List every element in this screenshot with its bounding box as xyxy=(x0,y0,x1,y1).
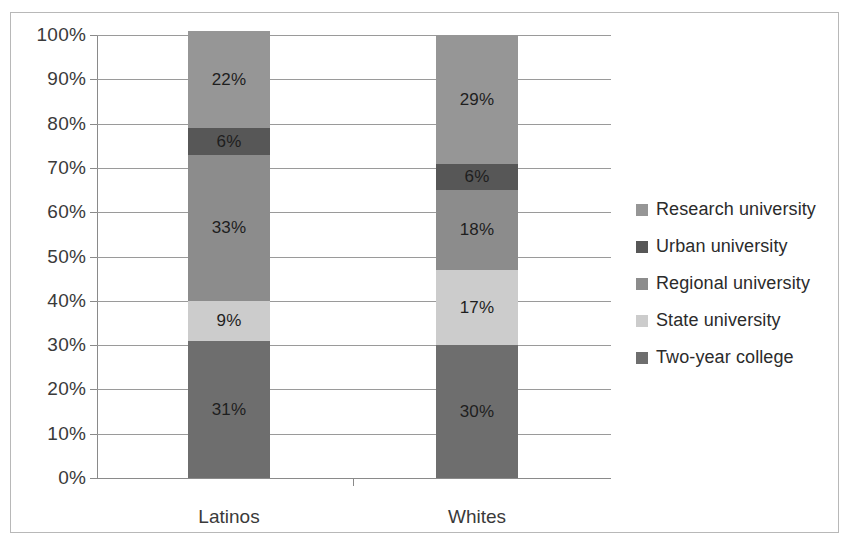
gridline-20 xyxy=(97,389,611,390)
bar-segment-value-label: 18% xyxy=(460,221,495,238)
x-axis-category-label: Latinos xyxy=(198,506,259,528)
plot-area: 100%90%80%70%60%50%40%30%20%10%0% 22%6%3… xyxy=(97,35,611,478)
legend-item-3[interactable]: State university xyxy=(636,302,836,339)
y-axis-tick-label: 50% xyxy=(47,246,86,268)
gridline-40 xyxy=(97,301,611,302)
gridline-90 xyxy=(97,79,611,80)
legend-item-4[interactable]: Two-year college xyxy=(636,339,836,376)
y-axis-tick-mark xyxy=(90,35,97,36)
legend-item-label: Two-year college xyxy=(656,347,794,368)
gridline-50 xyxy=(97,257,611,258)
bar-segment-value-label: 30% xyxy=(460,403,495,420)
chart-frame: 100%90%80%70%60%50%40%30%20%10%0% 22%6%3… xyxy=(10,12,839,533)
y-axis-tick-mark xyxy=(90,345,97,346)
y-axis-tick-label: 100% xyxy=(37,24,86,46)
y-axis-tick-mark xyxy=(90,389,97,390)
bar-segment-value-label: 22% xyxy=(212,71,247,88)
bar-segment[interactable]: 30% xyxy=(436,345,518,478)
y-axis-tick-label: 10% xyxy=(47,423,86,445)
legend-item-2[interactable]: Regional university xyxy=(636,265,836,302)
y-axis-tick-mark xyxy=(90,79,97,80)
legend-item-1[interactable]: Urban university xyxy=(636,228,836,265)
legend-swatch-icon xyxy=(636,241,648,253)
bar-segment[interactable]: 6% xyxy=(436,164,518,191)
gridline-80 xyxy=(97,124,611,125)
bar-whites[interactable]: 29%6%18%17%30% xyxy=(436,35,518,478)
y-axis-tick-label: 30% xyxy=(47,334,86,356)
bar-segment[interactable]: 6% xyxy=(188,128,270,155)
y-axis-tick-label: 20% xyxy=(47,378,86,400)
y-axis-tick-mark xyxy=(90,168,97,169)
gridline-60 xyxy=(97,212,611,213)
bar-latinos[interactable]: 22%6%33%9%31% xyxy=(188,31,270,478)
bar-segment-value-label: 6% xyxy=(465,168,490,185)
bar-segment[interactable]: 17% xyxy=(436,270,518,345)
gridline-10 xyxy=(97,434,611,435)
y-axis-tick-mark xyxy=(90,124,97,125)
bar-segment[interactable]: 31% xyxy=(188,341,270,478)
bar-segment-value-label: 31% xyxy=(212,401,247,418)
legend-item-label: Regional university xyxy=(656,273,810,294)
y-axis-tick-label: 80% xyxy=(47,113,86,135)
y-axis-tick-label: 60% xyxy=(47,201,86,223)
gridline-0 xyxy=(97,478,611,479)
gridline-30 xyxy=(97,345,611,346)
bar-segment[interactable]: 9% xyxy=(188,301,270,341)
bar-segment[interactable]: 22% xyxy=(188,31,270,128)
legend-item-label: Research university xyxy=(656,199,816,220)
bar-segment-value-label: 29% xyxy=(460,91,495,108)
bar-segment-value-label: 17% xyxy=(460,299,495,316)
legend-swatch-icon xyxy=(636,204,648,216)
bar-segment[interactable]: 18% xyxy=(436,190,518,270)
y-axis-tick-label: 70% xyxy=(47,157,86,179)
bar-segment-value-label: 9% xyxy=(217,312,242,329)
legend-swatch-icon xyxy=(636,278,648,290)
x-axis-separator-tick xyxy=(353,478,354,486)
gridline-100 xyxy=(97,35,611,36)
y-axis-tick-mark xyxy=(90,257,97,258)
y-axis-tick-label: 40% xyxy=(47,290,86,312)
bar-segment[interactable]: 33% xyxy=(188,155,270,301)
legend-item-label: State university xyxy=(656,310,781,331)
legend-swatch-icon xyxy=(636,352,648,364)
legend-swatch-icon xyxy=(636,315,648,327)
bar-segment-value-label: 33% xyxy=(212,219,247,236)
gridline-70 xyxy=(97,168,611,169)
y-axis-tick-label: 0% xyxy=(58,467,86,489)
y-axis-tick-mark xyxy=(90,478,97,479)
legend-item-0[interactable]: Research university xyxy=(636,191,836,228)
y-axis-tick-mark xyxy=(90,434,97,435)
bar-segment-value-label: 6% xyxy=(217,133,242,150)
legend-item-label: Urban university xyxy=(656,236,788,257)
bar-segment[interactable]: 29% xyxy=(436,35,518,163)
y-axis-tick-mark xyxy=(90,301,97,302)
x-axis-category-label: Whites xyxy=(448,506,506,528)
y-axis-tick-label: 90% xyxy=(47,68,86,90)
chart-legend: Research universityUrban universityRegio… xyxy=(636,191,836,376)
y-axis-tick-mark xyxy=(90,212,97,213)
